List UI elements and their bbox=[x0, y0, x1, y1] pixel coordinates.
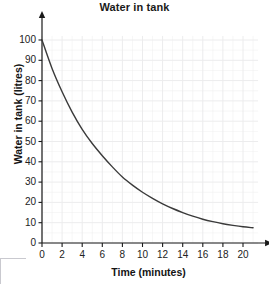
x-tick-label: 20 bbox=[230, 250, 256, 260]
page-corner-artifact bbox=[0, 258, 26, 284]
